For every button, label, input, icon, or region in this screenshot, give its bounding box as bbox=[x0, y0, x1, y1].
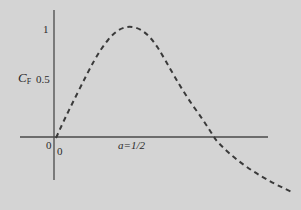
cf-curve bbox=[56, 27, 292, 192]
y-axis-label: CF bbox=[18, 72, 31, 87]
y-axis-label-sub: F bbox=[27, 77, 31, 86]
y-tick-0-5: 0.5 bbox=[36, 74, 50, 85]
a-value-annotation: a=1/2 bbox=[118, 140, 145, 151]
y-tick-1: 1 bbox=[43, 24, 49, 35]
y-axis-label-main: C bbox=[18, 70, 27, 85]
x-origin-label: 0 bbox=[46, 140, 52, 151]
chart: 1 0.5 CF 0 0 a=1/2 bbox=[0, 0, 301, 210]
y-origin-label: 0 bbox=[57, 146, 63, 157]
